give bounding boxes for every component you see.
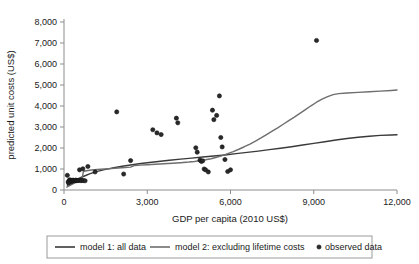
data-point [212, 118, 216, 122]
y-axis-tick-label: 4,000 [34, 101, 57, 111]
data-point [195, 150, 199, 154]
x-axis-tick-label: 9,000 [302, 197, 325, 207]
data-point [220, 145, 224, 149]
chart-background [0, 0, 419, 264]
y-axis-tick-label: 3,000 [34, 122, 57, 132]
x-axis-title: GDP per capita (2010 US$) [172, 213, 288, 224]
data-point [129, 159, 133, 163]
data-point [219, 135, 223, 139]
y-axis-title: predicted unit costs (US$) [5, 50, 16, 159]
y-axis-tick-label: 0 [52, 185, 57, 195]
x-axis-tick-label: 6,000 [219, 197, 242, 207]
y-axis-tick-label: 1,000 [34, 164, 57, 174]
chart-legend: model 1: all datamodel 2: excluding life… [47, 236, 382, 258]
data-point [194, 146, 198, 150]
data-point [83, 179, 87, 183]
y-axis-tick-label: 8,000 [34, 17, 57, 27]
legend-label: model 1: all data [80, 242, 146, 252]
data-point [176, 121, 180, 125]
data-point [206, 170, 210, 174]
data-point [174, 116, 178, 120]
y-axis-tick-label: 7,000 [34, 38, 57, 48]
data-point [93, 170, 97, 174]
legend-label: model 2: excluding lifetime costs [175, 242, 305, 252]
data-point [86, 164, 90, 168]
data-point [115, 110, 119, 114]
x-axis-tick-label: 3,000 [136, 197, 159, 207]
x-axis-tick-label: 12,000 [383, 197, 411, 207]
data-point [217, 94, 221, 98]
legend-label: observed data [325, 242, 382, 252]
chart-figure: 01,0002,0003,0004,0005,0006,0007,0008,00… [0, 0, 419, 264]
y-axis-tick-label: 2,000 [34, 143, 57, 153]
data-point [159, 132, 163, 136]
y-axis-tick-label: 5,000 [34, 80, 57, 90]
data-point [81, 167, 85, 171]
scatter-line-chart: 01,0002,0003,0004,0005,0006,0007,0008,00… [0, 0, 419, 264]
data-point [201, 159, 205, 163]
data-point [228, 168, 232, 172]
data-point [314, 38, 318, 42]
data-point [215, 113, 219, 117]
data-point [223, 157, 227, 161]
legend-marker-swatch [317, 245, 321, 249]
data-point [122, 172, 126, 176]
data-point [151, 128, 155, 132]
data-point [210, 108, 214, 112]
data-point [155, 131, 159, 135]
data-point [65, 173, 69, 177]
x-axis-tick-label: 0 [61, 197, 66, 207]
y-axis-tick-label: 6,000 [34, 59, 57, 69]
